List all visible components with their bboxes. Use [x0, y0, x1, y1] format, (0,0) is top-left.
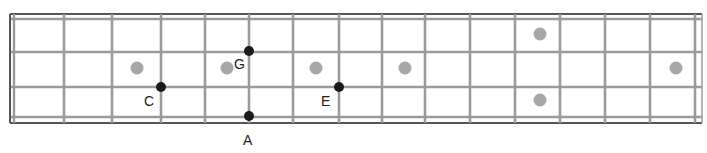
fretboard-border: [10, 14, 702, 123]
note-label-e: E: [321, 93, 330, 109]
frets: [64, 14, 695, 123]
nut: [10, 14, 14, 123]
inlay-dot-fret-3: [131, 62, 144, 75]
note-labels: C G A E: [144, 56, 330, 148]
inlay-dot-fret-12-upper: [534, 28, 547, 41]
note-label-g: G: [234, 56, 245, 72]
note-label-c: C: [144, 93, 154, 109]
note-dot-g: [244, 46, 254, 56]
inlay-dot-fret-5: [221, 62, 234, 75]
inlay-markers: [131, 28, 683, 107]
inlay-dot-fret-12-lower: [534, 94, 547, 107]
note-dot-a: [244, 111, 254, 121]
fretboard-diagram: C G A E: [0, 0, 707, 153]
inlay-dot-fret-7: [310, 62, 323, 75]
note-dot-e: [334, 82, 344, 92]
inlay-dot-fret-15: [670, 62, 683, 75]
inlay-dot-fret-9: [399, 62, 412, 75]
note-label-a: A: [243, 132, 253, 148]
note-dot-c: [156, 82, 166, 92]
strings: [10, 19, 702, 117]
